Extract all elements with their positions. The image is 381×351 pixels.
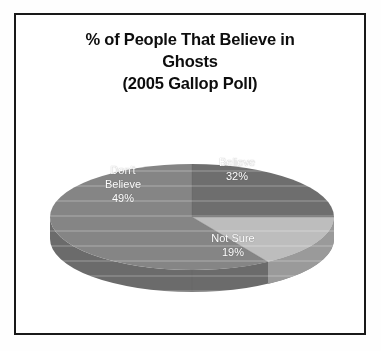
pie-slice-believe	[192, 164, 334, 217]
pie-chart-graphic	[46, 127, 338, 317]
chart-frame: % of People That Believe in Ghosts (2005…	[14, 13, 366, 335]
chart-title-line-2: Ghosts	[16, 51, 364, 73]
chart-title-line-3: (2005 Gallop Poll)	[16, 73, 364, 95]
chart-title-line-1: % of People That Believe in	[16, 29, 364, 51]
chart-title: % of People That Believe in Ghosts (2005…	[16, 29, 364, 94]
pie-chart-plot-area: Believe 32% Don't Believe 49% Not Sure 1…	[46, 127, 338, 317]
scanned-page: % of People That Believe in Ghosts (2005…	[0, 0, 381, 351]
